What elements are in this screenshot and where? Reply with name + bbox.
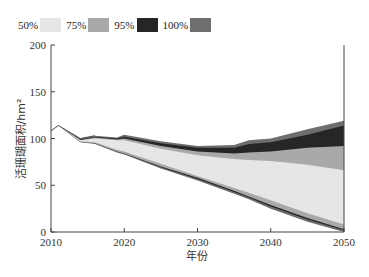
y-tick-label: 100 (30, 133, 47, 145)
x-ticks: 20102020203020402050 (40, 228, 356, 248)
x-tick-label: 2010 (40, 236, 63, 248)
x-tick-label: 2020 (113, 236, 136, 248)
y-tick-label: 150 (30, 86, 47, 98)
uncertainty-bands (51, 121, 344, 232)
y-tick-label: 200 (30, 39, 47, 51)
x-tick-label: 2050 (333, 236, 356, 248)
x-tick-label: 2030 (187, 236, 210, 248)
x-axis-label: 年份 (186, 249, 208, 263)
fan-chart: 050100150200 20102020203020402050 年份 活珊瑚… (0, 0, 369, 277)
y-axis-label: 活珊瑚面积/hm² (15, 99, 28, 180)
y-tick-label: 50 (35, 179, 47, 191)
x-tick-label: 2040 (260, 236, 283, 248)
